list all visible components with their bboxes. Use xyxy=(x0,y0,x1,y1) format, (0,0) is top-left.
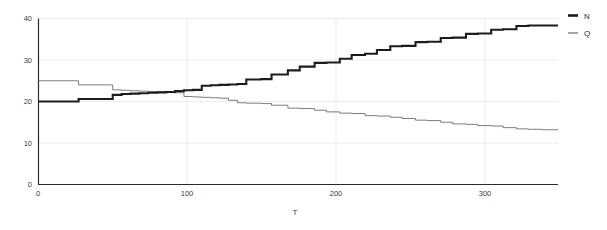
legend-label-n: N xyxy=(584,12,590,21)
x-tick-label-300: 300 xyxy=(479,189,492,198)
y-tick-label-30: 30 xyxy=(24,56,32,65)
y-tick-label-40: 40 xyxy=(24,14,32,23)
x-tick-label-200: 200 xyxy=(330,189,343,198)
series-group xyxy=(39,26,559,130)
series-line-q xyxy=(39,81,559,130)
x-tick-label-100: 100 xyxy=(181,189,194,198)
y-tick-labels: 40 30 20 10 0 xyxy=(24,14,32,189)
gridlines xyxy=(38,19,558,185)
legend-label-q: Q xyxy=(584,29,590,38)
y-tick-label-20: 20 xyxy=(24,97,32,106)
x-tick-label-0: 0 xyxy=(36,189,40,198)
chart-container: 40 30 20 10 0 0 100 200 300 T N Q xyxy=(0,0,607,230)
x-axis-title: T xyxy=(293,208,298,217)
y-tick-label-0: 0 xyxy=(28,180,32,189)
y-tick-label-10: 10 xyxy=(24,139,32,148)
line-chart: 40 30 20 10 0 0 100 200 300 T N Q xyxy=(0,0,607,230)
legend: N Q xyxy=(568,12,590,39)
x-tick-labels: 0 100 200 300 xyxy=(36,189,491,198)
